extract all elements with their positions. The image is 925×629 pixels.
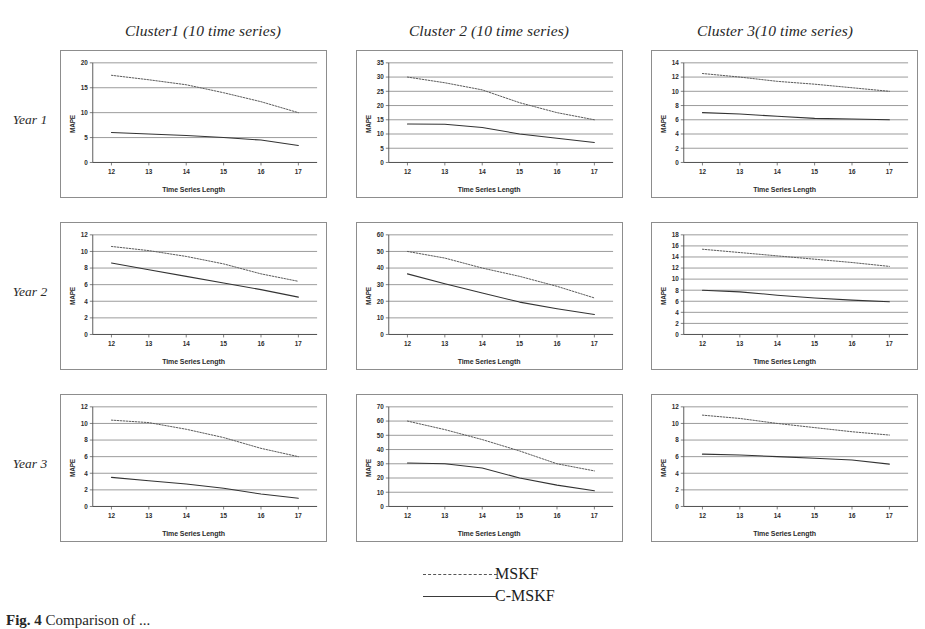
svg-text:0: 0 [84, 331, 88, 338]
plot-year2-cluster2: 0102030405060121314151617 [357, 223, 622, 369]
column-title-cluster2: Cluster 2 (10 time series) [346, 22, 632, 48]
chart-panel-year3-cluster3: 024681012121314151617 MAPE Time Series L… [651, 394, 918, 542]
svg-text:8: 8 [84, 264, 88, 271]
svg-text:8: 8 [675, 436, 679, 443]
svg-text:20: 20 [376, 298, 384, 305]
svg-text:15: 15 [811, 512, 819, 519]
plot-year3-cluster3: 024681012121314151617 [652, 395, 917, 541]
svg-text:17: 17 [295, 512, 303, 519]
svg-text:6: 6 [84, 281, 88, 288]
chart-panel-year2-cluster1: 024681012121314151617 MAPE Time Series L… [60, 222, 327, 370]
svg-text:30: 30 [376, 281, 384, 288]
svg-text:16: 16 [672, 242, 680, 249]
y-axis-label: MAPE [69, 115, 76, 133]
svg-text:70: 70 [376, 403, 384, 410]
y-axis-label: MAPE [660, 459, 667, 477]
svg-text:12: 12 [672, 73, 680, 80]
svg-text:20: 20 [376, 102, 384, 109]
svg-text:13: 13 [736, 340, 744, 347]
svg-text:12: 12 [108, 340, 116, 347]
svg-text:15: 15 [220, 340, 228, 347]
x-axis-label: Time Series Length [61, 186, 326, 193]
legend-swatch-dashed-icon [423, 569, 497, 579]
column-title-cluster1: Cluster1 (10 time series) [60, 22, 346, 48]
svg-text:4: 4 [675, 309, 679, 316]
svg-text:16: 16 [848, 340, 856, 347]
svg-text:10: 10 [376, 130, 384, 137]
x-axis-label: Time Series Length [652, 186, 917, 193]
svg-text:12: 12 [699, 512, 707, 519]
svg-text:16: 16 [257, 512, 265, 519]
chart-grid: Year 1 05101520121314151617 MAPE Time Se… [0, 50, 925, 566]
row-label-year2: Year 2 [0, 222, 60, 300]
row-panels-year1: 05101520121314151617 MAPE Time Series Le… [60, 50, 925, 198]
svg-text:8: 8 [675, 102, 679, 109]
svg-text:0: 0 [675, 159, 679, 166]
svg-text:10: 10 [672, 420, 680, 427]
svg-text:14: 14 [478, 512, 486, 519]
x-axis-label: Time Series Length [357, 530, 622, 537]
svg-text:15: 15 [516, 168, 524, 175]
svg-text:2: 2 [84, 486, 88, 493]
legend-item-c-mskf: C-MSKF [423, 586, 555, 606]
svg-text:0: 0 [675, 331, 679, 338]
svg-text:4: 4 [675, 130, 679, 137]
caption-prefix: Fig. 4 [6, 612, 42, 628]
svg-text:15: 15 [376, 116, 384, 123]
y-axis-label: MAPE [69, 459, 76, 477]
plot-year2-cluster1: 024681012121314151617 [61, 223, 326, 369]
svg-text:14: 14 [774, 168, 782, 175]
svg-text:14: 14 [672, 253, 680, 260]
y-axis-label: MAPE [660, 115, 667, 133]
chart-panel-year1-cluster3: 02468101214121314151617 MAPE Time Series… [651, 50, 918, 198]
figure-mape-comparison: Cluster1 (10 time series) Cluster 2 (10 … [0, 0, 925, 629]
chart-row-year2: Year 2 024681012121314151617 MAPE Time S… [0, 222, 925, 394]
svg-text:10: 10 [672, 276, 680, 283]
svg-text:17: 17 [590, 512, 598, 519]
svg-text:13: 13 [145, 512, 153, 519]
svg-text:40: 40 [376, 264, 384, 271]
svg-text:8: 8 [84, 436, 88, 443]
chart-row-year1: Year 1 05101520121314151617 MAPE Time Se… [0, 50, 925, 222]
svg-text:60: 60 [376, 231, 384, 238]
figure-caption: Fig. 4 Comparison of ... [6, 612, 566, 629]
svg-text:17: 17 [590, 168, 598, 175]
column-title-cluster3: Cluster 3(10 time series) [632, 22, 918, 48]
plot-year3-cluster2: 010203040506070121314151617 [357, 395, 622, 541]
chart-panel-year3-cluster1: 024681012121314151617 MAPE Time Series L… [60, 394, 327, 542]
svg-text:14: 14 [478, 340, 486, 347]
svg-text:12: 12 [672, 403, 680, 410]
svg-text:12: 12 [108, 168, 116, 175]
svg-text:12: 12 [699, 168, 707, 175]
svg-text:10: 10 [81, 420, 89, 427]
svg-text:16: 16 [848, 168, 856, 175]
svg-text:17: 17 [295, 340, 303, 347]
svg-text:13: 13 [736, 512, 744, 519]
y-axis-label: MAPE [365, 459, 372, 477]
svg-text:12: 12 [699, 340, 707, 347]
svg-text:15: 15 [81, 84, 89, 91]
x-axis-label: Time Series Length [357, 186, 622, 193]
y-axis-label: MAPE [365, 287, 372, 305]
svg-text:14: 14 [183, 512, 191, 519]
figure-legend: MSKF C-MSKF [0, 562, 925, 610]
svg-text:0: 0 [675, 503, 679, 510]
svg-text:16: 16 [257, 340, 265, 347]
svg-text:12: 12 [108, 512, 116, 519]
svg-text:16: 16 [848, 512, 856, 519]
x-axis-label: Time Series Length [652, 530, 917, 537]
x-axis-label: Time Series Length [61, 358, 326, 365]
svg-text:30: 30 [376, 73, 384, 80]
x-axis-label: Time Series Length [357, 358, 622, 365]
caption-text: Comparison of ... [46, 612, 151, 628]
svg-text:14: 14 [478, 168, 486, 175]
svg-text:10: 10 [376, 314, 384, 321]
svg-text:14: 14 [183, 168, 191, 175]
svg-text:2: 2 [675, 486, 679, 493]
y-axis-label: MAPE [365, 115, 372, 133]
svg-text:18: 18 [672, 231, 680, 238]
svg-text:4: 4 [84, 298, 88, 305]
svg-text:15: 15 [516, 512, 524, 519]
svg-text:35: 35 [376, 59, 384, 66]
svg-text:13: 13 [441, 512, 449, 519]
